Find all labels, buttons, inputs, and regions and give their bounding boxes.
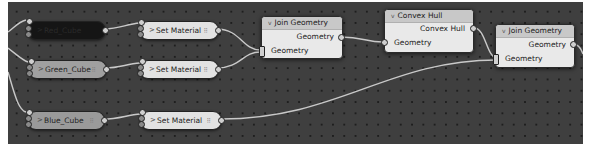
output-socket[interactable] [215,27,222,34]
input-socket[interactable] [26,70,33,77]
link-setmat1-to-join1 [217,29,260,50]
output-label-convex-hull: Convex Hull [420,24,465,33]
join-geometry-node-1[interactable]: vJoin Geometry Geometry Geometry [261,16,343,59]
link-blue-to-setmat3 [103,114,141,119]
expand-chevron-icon[interactable]: > [38,61,44,78]
output-socket[interactable] [215,66,222,73]
collapse-chevron-icon[interactable]: v [268,19,272,26]
input-label-geometry: Geometry [394,38,431,47]
grip-icon: ⠿ [204,61,208,78]
grip-icon: ⠿ [92,61,96,78]
output-socket[interactable] [101,117,108,124]
output-label-geometry: Geometry [297,32,334,41]
input-socket[interactable] [25,31,32,38]
output-socket-geometry[interactable] [338,34,345,41]
link-setmat3-to-join2 [221,60,497,119]
node-title: Join Geometry [275,18,328,27]
set-material-node-1[interactable]: > Set Material ⠿ [139,21,219,40]
output-socket[interactable] [103,66,110,73]
node-label: Green_Cube [45,61,91,78]
node-header[interactable]: vJoin Geometry [496,25,574,38]
node-label: Set Material [156,61,201,78]
output-socket[interactable] [218,117,225,124]
node-header[interactable]: vConvex Hull [385,10,473,23]
input-socket[interactable] [137,31,144,38]
grip-icon: ⠿ [207,112,211,129]
join-geometry-node-2[interactable]: vJoin Geometry Geometry Geometry [495,24,575,68]
input-socket[interactable] [137,70,144,77]
collapse-chevron-icon[interactable]: v [502,27,506,34]
output-label-geometry: Geometry [529,40,566,49]
input-label-geometry: Geometry [505,54,542,63]
input-socket[interactable] [138,121,145,128]
convex-hull-node[interactable]: vConvex Hull Convex Hull Geometry [384,9,474,53]
node-title: Join Geometry [509,26,562,35]
output-socket[interactable] [102,27,109,34]
expand-chevron-icon[interactable]: > [150,112,156,129]
link-offscreen-red-cube [8,20,26,32]
link-setmat2-to-join1 [217,52,260,68]
node-header[interactable]: vJoin Geometry [262,17,342,30]
node-label: Blue_Cube [44,112,84,129]
link-join1-to-convexhull [341,37,383,42]
link-offscreen-blue-cube [8,72,26,112]
node-title: Convex Hull [398,11,443,20]
link-green-to-setmat2 [105,63,140,68]
output-socket-convex-hull[interactable] [470,25,477,32]
input-socket[interactable] [26,18,33,25]
grip-icon: ⠿ [204,22,208,39]
input-label-geometry: Geometry [271,46,308,55]
input-socket[interactable] [25,121,32,128]
grip-icon: ⠿ [90,112,94,129]
blue-cube-node[interactable]: > Blue_Cube ⠿ [27,111,105,130]
input-socket-geometry-multi[interactable] [493,54,499,65]
output-socket-geometry[interactable] [570,41,577,48]
node-label: Set Material [156,22,201,39]
expand-chevron-icon[interactable]: > [149,61,155,78]
set-material-node-3[interactable]: > Set Material ⠿ [140,111,222,130]
link-red-to-setmat1 [104,23,140,29]
input-socket-geometry[interactable] [381,39,388,46]
expand-chevron-icon[interactable]: > [149,22,155,39]
link-offscreen-green-cube [8,48,28,62]
expand-chevron-icon[interactable]: > [37,22,43,39]
red-cube-node[interactable]: > Red_Cube [27,21,106,40]
expand-chevron-icon[interactable]: > [37,112,43,129]
green-cube-node[interactable]: > Green_Cube ⠿ [28,60,107,79]
input-socket-geometry-multi[interactable] [259,46,265,57]
collapse-chevron-icon[interactable]: v [391,12,395,19]
set-material-node-2[interactable]: > Set Material ⠿ [139,60,219,79]
node-label: Red_Cube [44,22,81,39]
node-editor-canvas[interactable]: > Red_Cube > Green_Cube ⠿ > Blue_Cube ⠿ … [8,2,583,144]
node-label: Set Material [157,112,202,129]
